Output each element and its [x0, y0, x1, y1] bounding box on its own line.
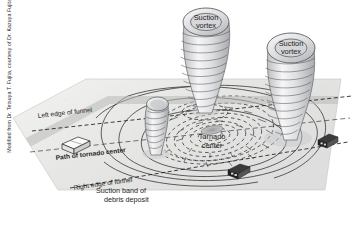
- tornado-center-label-line1: Tornado: [199, 132, 226, 141]
- suction-vortex-left-label-line2: vortex: [196, 21, 216, 30]
- figure-canvas: Modified from Dr. Tetsuya T. Fujita, cou…: [0, 0, 358, 225]
- suction-band-label-line1: Suction band of: [96, 186, 146, 195]
- tornado-diagram: Suction vortex Suction vort: [0, 0, 358, 225]
- suction-band-label-line2: debris deposit: [104, 195, 149, 204]
- suction-vortex-right-label-line2: vortex: [281, 47, 301, 56]
- tornado-center-label-line2: center: [202, 141, 223, 150]
